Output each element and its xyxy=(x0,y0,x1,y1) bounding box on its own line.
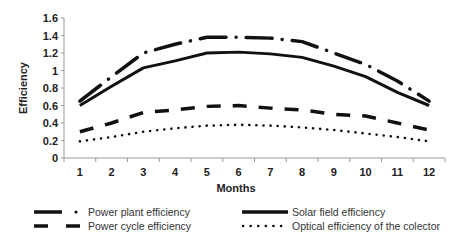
x-axis-title: Months xyxy=(216,182,255,194)
x-tick-label: 6 xyxy=(236,166,242,178)
y-tick-label: 0.6 xyxy=(43,100,58,112)
x-tick-label: 11 xyxy=(392,166,404,178)
legend-item-optical: Optical efficiency of the colector xyxy=(242,220,440,232)
y-tick-label: 0 xyxy=(52,152,58,164)
y-tick-label: 1 xyxy=(52,65,58,77)
series-power-plant-efficiency xyxy=(80,37,429,101)
x-tick-label: 10 xyxy=(360,166,372,178)
x-tick-label: 4 xyxy=(172,166,179,178)
x-tick-label: 5 xyxy=(204,166,210,178)
x-tick-label: 2 xyxy=(109,166,115,178)
x-tick-label: 12 xyxy=(423,166,435,178)
y-tick-label: 0.8 xyxy=(43,82,58,94)
x-tick-label: 1 xyxy=(77,166,83,178)
x-tick-label: 9 xyxy=(331,166,337,178)
legend-item-solar-field: Solar field efficiency xyxy=(242,206,385,218)
legend-item-power-cycle: Power cycle efficiency xyxy=(34,220,191,232)
y-tick-label: 0.2 xyxy=(43,135,58,147)
solid-line-icon xyxy=(242,208,288,216)
dashed-line-icon xyxy=(34,222,84,230)
series-optical-efficiency-of-the-colector xyxy=(80,125,429,142)
y-axis-title: Efficiency xyxy=(17,61,29,114)
legend-item-power-plant: Power plant efficiency xyxy=(34,206,190,218)
dotted-line-icon xyxy=(242,222,288,230)
x-tick-label: 7 xyxy=(267,166,273,178)
legend-label: Power cycle efficiency xyxy=(88,220,191,232)
legend-label: Power plant efficiency xyxy=(88,206,190,218)
y-tick-label: 1.4 xyxy=(43,30,59,42)
x-axis: 123456789101112 xyxy=(64,158,445,178)
efficiency-line-chart: Efficiency 00.20.40.60.811.21.41.6 12345… xyxy=(0,0,468,205)
y-tick-label: 1.6 xyxy=(43,12,58,24)
x-tick-label: 8 xyxy=(299,166,305,178)
y-tick-label: 1.2 xyxy=(43,47,58,59)
legend-label: Optical efficiency of the colector xyxy=(292,220,440,232)
series-power-cycle-efficiency xyxy=(80,106,429,132)
x-tick-label: 3 xyxy=(140,166,146,178)
dash-dot-line-icon xyxy=(34,208,84,216)
y-tick-label: 0.4 xyxy=(43,117,59,129)
y-axis: 00.20.40.60.811.21.41.6 xyxy=(43,12,64,164)
series-lines xyxy=(80,37,429,141)
legend-label: Solar field efficiency xyxy=(292,206,385,218)
